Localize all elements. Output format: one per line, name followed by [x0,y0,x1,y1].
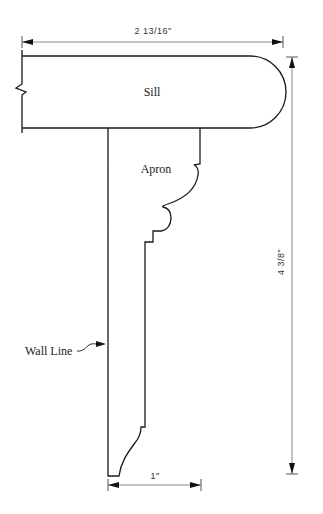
leader-line [77,344,97,351]
sill-apron-diagram: 2 13/16" 4 3/8" 1" Sill Apron Wall Line [0,0,323,514]
arrow-up-icon [289,57,295,68]
apron-thickness-label: 1" [150,471,159,481]
arrow-left-icon [108,482,119,488]
arrow-down-icon [289,463,295,474]
overall-height-dimension: 4 3/8" [276,57,298,474]
arrow-left-icon [22,39,33,45]
apron-thickness-dimension: 1" [108,471,201,491]
arrow-right-icon [190,482,201,488]
wall-line-label: Wall Line [25,344,72,358]
arrow-right-icon [272,39,283,45]
sill-width-dimension: 2 13/16" [22,26,283,48]
overall-height-label: 4 3/8" [276,249,286,275]
sill-width-label: 2 13/16" [134,26,171,36]
sill-label: Sill [144,85,161,99]
wall-line-callout: Wall Line [25,341,106,358]
apron-label: Apron [141,162,172,176]
apron-profile [108,128,200,476]
leader-arrow-icon [96,341,106,347]
